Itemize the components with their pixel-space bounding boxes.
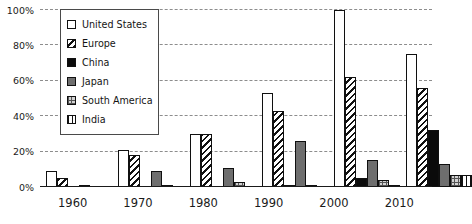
swatch-gray-icon	[67, 77, 76, 86]
y-tick-label-20pct: 20%	[13, 147, 34, 157]
y-tick-label-100pct: 100%	[7, 5, 34, 15]
swatch-black-icon	[67, 58, 76, 67]
legend-item-india: India	[67, 110, 152, 129]
x-axis-line	[40, 186, 432, 187]
bar-india-2010	[461, 175, 472, 187]
bar-europe-1970	[129, 155, 140, 187]
x-tick-label-1960: 1960	[40, 191, 105, 215]
bar-group-bars	[406, 54, 472, 187]
legend-item-japan: Japan	[67, 72, 152, 91]
y-tick-label-60pct: 60%	[13, 76, 34, 86]
x-tick-label-2010: 2010	[367, 191, 432, 215]
bar-japan-1990	[295, 141, 306, 187]
bar-group-bars	[334, 10, 400, 187]
y-axis: 0%20%40%60%80%100%	[0, 10, 38, 187]
bar-group-bars	[46, 171, 112, 187]
legend-item-label: India	[82, 115, 106, 125]
bar-group-bars	[262, 93, 328, 187]
bar-group-2010	[400, 10, 472, 187]
bar-united-states-1980	[190, 134, 201, 187]
bar-group-1980	[184, 10, 256, 187]
legend-item-label: Europe	[82, 39, 116, 49]
y-tick-label-80pct: 80%	[13, 41, 34, 51]
bar-united-states-1960	[46, 171, 57, 187]
legend-item-label: Japan	[82, 77, 109, 87]
y-tick-label-0pct: 0%	[19, 182, 34, 192]
bar-group-bars	[190, 134, 256, 187]
legend: United StatesEuropeChinaJapanSouth Ameri…	[60, 9, 159, 135]
bar-group-1990	[256, 10, 328, 187]
bar-united-states-1970	[118, 150, 129, 187]
bar-japan-2000	[367, 160, 378, 187]
bar-china-2010	[428, 130, 439, 187]
swatch-white-icon	[67, 20, 76, 29]
bar-europe-2000	[345, 77, 356, 187]
bar-south-america-2010	[450, 175, 461, 187]
legend-item-south-america: South America	[67, 91, 152, 110]
bar-japan-2010	[439, 164, 450, 187]
legend-item-europe: Europe	[67, 34, 152, 53]
bar-united-states-1990	[262, 93, 273, 187]
swatch-diagonal-icon	[67, 39, 76, 48]
bar-group-2000	[328, 10, 400, 187]
x-axis: 196019701980199020002010	[40, 191, 432, 215]
bar-japan-1980	[223, 168, 234, 187]
bar-europe-2010	[417, 88, 428, 187]
legend-item-label: South America	[82, 96, 153, 106]
bar-united-states-2000	[334, 10, 345, 187]
y-tick-label-40pct: 40%	[13, 111, 34, 121]
swatch-crosshatch-icon	[67, 96, 76, 105]
legend-item-label: United States	[82, 20, 147, 30]
x-tick-label-1980: 1980	[171, 191, 236, 215]
legend-item-china: China	[67, 53, 152, 72]
bar-united-states-2010	[406, 54, 417, 187]
bar-group-bars	[118, 150, 184, 187]
bar-europe-1980	[201, 134, 212, 187]
x-tick-label-1990: 1990	[236, 191, 301, 215]
x-tick-label-2000: 2000	[301, 191, 366, 215]
legend-item-united-states: United States	[67, 15, 152, 34]
bar-europe-1990	[273, 111, 284, 187]
x-tick-label-1970: 1970	[105, 191, 170, 215]
bar-japan-1970	[151, 171, 162, 187]
swatch-vertical-icon	[67, 115, 76, 124]
legend-item-label: China	[82, 58, 109, 68]
